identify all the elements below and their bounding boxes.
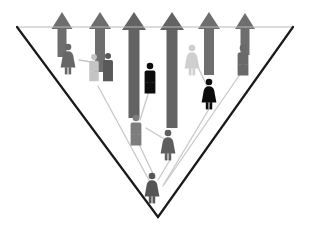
person-male-left-leg-icon — [238, 64, 242, 75]
person-head-icon — [165, 130, 172, 137]
person-female-right-leg-icon — [69, 67, 72, 74]
person-female-pale-right — [185, 45, 200, 76]
person-female-left-leg-icon — [189, 68, 192, 75]
person-head-icon — [105, 53, 111, 59]
arrow-1 — [52, 12, 73, 57]
person-female-right-leg-icon — [169, 153, 172, 160]
person-head-icon — [91, 54, 97, 60]
person-head-icon — [147, 63, 154, 70]
person-male-right-leg-icon — [109, 71, 113, 81]
upward-arrows-group — [52, 12, 256, 128]
triangle-right-edge — [158, 27, 293, 217]
person-female-left-leg-icon — [206, 102, 209, 109]
person-female-dress-icon — [185, 52, 200, 68]
person-female-right-leg-icon — [153, 196, 156, 203]
person-female-dress-icon — [202, 86, 217, 102]
person-male-left-leg-icon — [131, 134, 135, 145]
person-male-left-leg-icon — [145, 82, 149, 93]
arrow-5 — [198, 12, 220, 75]
person-female-left-leg-icon — [165, 153, 168, 160]
person-male-right-leg-icon — [95, 71, 99, 81]
person-male-right-leg-icon — [151, 82, 155, 93]
link-mid-male-bottom — [138, 142, 155, 178]
person-head-icon — [149, 173, 156, 180]
person-head-icon — [133, 115, 140, 122]
person-female-dress-icon — [145, 180, 160, 196]
person-female-dress-icon — [161, 137, 176, 153]
arrow-3 — [122, 12, 146, 118]
funnel-people-diagram — [0, 0, 311, 236]
person-female-right-leg-icon — [210, 102, 213, 109]
person-head-icon — [206, 79, 213, 86]
person-female-left-leg-icon — [149, 196, 152, 203]
person-head-icon — [240, 45, 247, 52]
person-male-right-leg-icon — [137, 134, 141, 145]
person-male-left-leg-icon — [89, 71, 93, 81]
person-male-left-leg-icon — [103, 71, 107, 81]
person-head-icon — [65, 44, 72, 51]
link-left-long-bottom — [98, 86, 150, 182]
diagram-canvas — [0, 0, 311, 236]
person-male-right-leg-icon — [244, 64, 248, 75]
link-mid-male-female — [146, 128, 166, 140]
person-female-right-leg-icon — [193, 68, 196, 75]
person-male-black-center — [145, 63, 156, 94]
person-female-black-right — [202, 79, 217, 110]
person-female-left-leg-icon — [65, 67, 68, 74]
person-head-icon — [189, 45, 196, 52]
person-female-mid-lower — [161, 130, 176, 161]
arrow-4 — [160, 12, 184, 128]
